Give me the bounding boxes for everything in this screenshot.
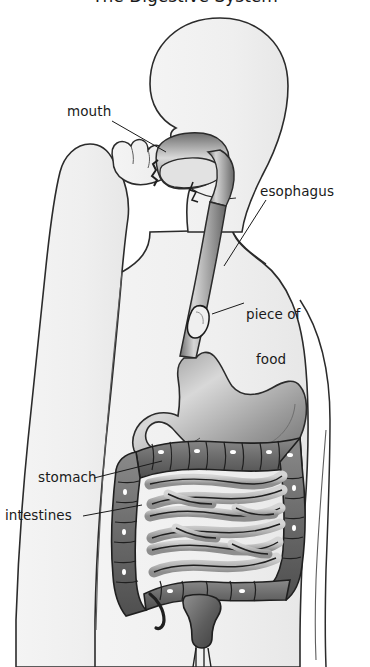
digestive-system-figure: The Digestive System (0, 0, 370, 667)
label-piece-of-food-line1: piece of (246, 307, 300, 322)
label-piece-of-food: piece of food (246, 277, 300, 397)
label-piece-of-food-line2: food (246, 352, 300, 367)
digestive-system-illustration (0, 0, 370, 667)
label-intestines: intestines (5, 508, 72, 523)
label-mouth: mouth (67, 104, 111, 119)
right-arm-inner-contour (315, 430, 326, 660)
label-esophagus: esophagus (260, 184, 334, 199)
label-stomach: stomach (38, 470, 97, 485)
